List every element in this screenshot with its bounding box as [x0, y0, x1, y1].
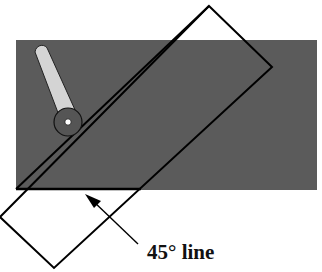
- forty-five-degree-label: 45° line: [147, 240, 214, 265]
- diagram-canvas: 45° line: [0, 0, 322, 272]
- arrow-shaft: [92, 200, 138, 244]
- diagram-svg: [0, 0, 322, 272]
- pivot-center-dot: [65, 119, 71, 125]
